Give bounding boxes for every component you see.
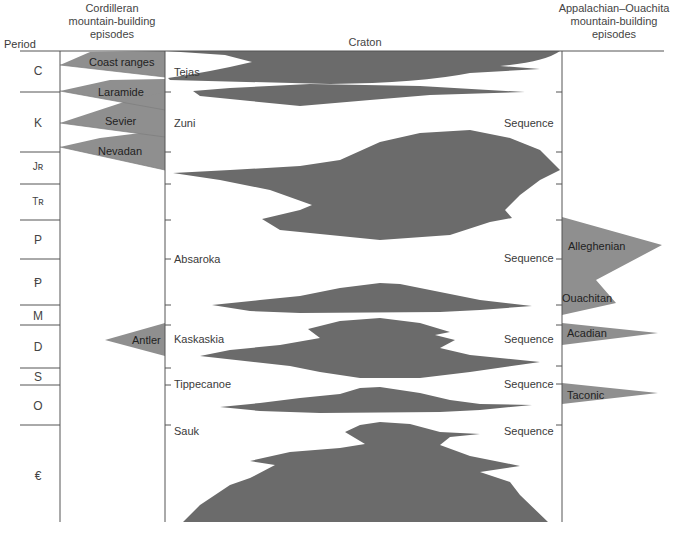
- kaskaskia-shape: [200, 318, 540, 378]
- craton-header: Craton: [330, 36, 400, 49]
- craton-sequence-shapes: [166, 51, 560, 522]
- episode-sevier: Sevier: [105, 115, 136, 127]
- sequence-absaroka: Absaroka: [174, 253, 220, 265]
- sequence-tippecanoe-suffix: Sequence: [504, 378, 554, 390]
- absaroka-shape: [212, 283, 532, 313]
- episode-acadian: Acadian: [567, 327, 607, 339]
- sequence-tejas: Tejas: [174, 66, 200, 78]
- craton-sequence-diagram: [0, 0, 679, 535]
- cordilleran-header: Cordilleran mountain-building episodes: [52, 2, 172, 41]
- period-cretaceous-c: C: [18, 64, 58, 78]
- sequence-sauk-suffix: Sequence: [504, 425, 554, 437]
- episode-taconic: Taconic: [567, 389, 604, 401]
- episode-antler: Antler: [132, 334, 161, 346]
- cordilleran-header-line-3: episodes: [52, 28, 172, 41]
- tejas-lower-shape: [193, 84, 525, 106]
- tejas-upper-shape: [166, 51, 560, 84]
- cordilleran-header-line-1: Cordilleran: [52, 2, 172, 15]
- period-mississippian: M: [18, 309, 58, 323]
- period-cambrian: €: [18, 469, 58, 483]
- sequence-zuni-suffix: Sequence: [504, 117, 554, 129]
- tippecanoe-shape: [220, 387, 532, 413]
- period-k: K: [18, 116, 58, 130]
- appalachian-header-line-3: episodes: [548, 28, 679, 41]
- appalachian-header: Appalachian–Ouachita mountain-building e…: [548, 2, 679, 41]
- episode-laramide: Laramide: [98, 86, 144, 98]
- sauk-shape: [183, 422, 548, 522]
- episode-ouachitan: Ouachitan: [562, 292, 612, 304]
- cordilleran-header-line-2: mountain-building: [52, 15, 172, 28]
- episode-coast-ranges: Coast ranges: [89, 56, 154, 68]
- period-header: Period: [4, 38, 36, 50]
- episode-alleghenian: Alleghenian: [568, 240, 626, 252]
- sequence-tippecanoe: Tippecanoe: [174, 378, 231, 390]
- sequence-sauk: Sauk: [174, 425, 199, 437]
- episode-nevadan: Nevadan: [98, 145, 142, 157]
- sequence-kaskaskia-suffix: Sequence: [504, 333, 554, 345]
- sequence-zuni: Zuni: [174, 117, 195, 129]
- period-silurian: S: [18, 370, 58, 384]
- appalachian-header-line-2: mountain-building: [548, 15, 679, 28]
- sequence-kaskaskia: Kaskaskia: [174, 333, 224, 345]
- period-triassic: Tʀ: [18, 196, 58, 207]
- period-pennsylvanian: Ᵽ: [18, 276, 58, 290]
- period-jurassic: Jʀ: [18, 161, 58, 172]
- period-ordovician: O: [18, 399, 58, 413]
- sequence-absaroka-suffix: Sequence: [504, 252, 554, 264]
- period-permian: P: [18, 233, 58, 247]
- appalachian-header-line-1: Appalachian–Ouachita: [548, 2, 679, 15]
- period-devonian: D: [18, 340, 58, 354]
- zuni-shape: [173, 130, 560, 240]
